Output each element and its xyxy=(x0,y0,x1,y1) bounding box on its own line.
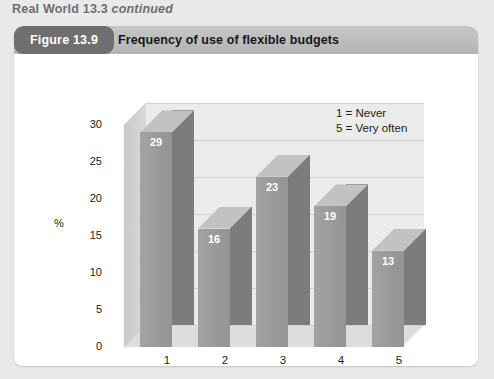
bar: 13 xyxy=(372,54,426,347)
y-tick-label: 5 xyxy=(72,303,102,315)
bar: 19 xyxy=(314,54,368,347)
y-tick-label: 10 xyxy=(72,266,102,278)
bar-value-label: 16 xyxy=(198,233,230,245)
x-tick-label: 4 xyxy=(321,354,361,366)
bar-front-face xyxy=(198,229,230,347)
y-axis-label: % xyxy=(54,217,64,229)
bar-front-face xyxy=(314,206,346,347)
running-head: Real World 13.3 continued xyxy=(12,2,173,16)
bar-value-label: 19 xyxy=(314,210,346,222)
bar-value-label: 23 xyxy=(256,181,288,193)
bar-front-face xyxy=(256,177,288,347)
bar: 23 xyxy=(256,54,310,347)
figure-header-bar: Figure 13.9 Frequency of use of flexible… xyxy=(14,26,478,54)
chart-legend: 1 = Never 5 = Very often xyxy=(336,106,407,136)
bar-value-label: 29 xyxy=(140,136,172,148)
bar-front-face xyxy=(140,132,172,347)
y-tick-label: 25 xyxy=(72,155,102,167)
y-tick-label: 15 xyxy=(72,229,102,241)
bar-side-face xyxy=(288,155,310,325)
y-tick-label: 20 xyxy=(72,192,102,204)
y-tick-label: 0 xyxy=(72,340,102,352)
bar-side-face xyxy=(346,184,368,325)
x-tick-label: 5 xyxy=(379,354,419,366)
legend-item-0: 1 = Never xyxy=(336,106,407,121)
x-tick-label: 3 xyxy=(263,354,303,366)
bar-value-label: 13 xyxy=(372,255,404,267)
bar: 16 xyxy=(198,54,252,347)
x-tick-label: 2 xyxy=(205,354,245,366)
legend-item-1: 5 = Very often xyxy=(336,121,407,136)
bar: 29 xyxy=(140,54,194,347)
running-head-continued: continued xyxy=(112,2,174,16)
chart-area: 051015202530 12345 2916231913 % Scale 1 … xyxy=(14,54,478,366)
bar-side-face xyxy=(172,110,194,325)
running-head-main: Real World 13.3 xyxy=(12,2,108,16)
y-tick-label: 30 xyxy=(72,118,102,130)
figure-title: Frequency of use of flexible budgets xyxy=(118,26,339,54)
figure-card: Figure 13.9 Frequency of use of flexible… xyxy=(14,26,478,366)
figure-number-badge: Figure 13.9 xyxy=(14,26,114,54)
x-tick-label: 1 xyxy=(147,354,187,366)
